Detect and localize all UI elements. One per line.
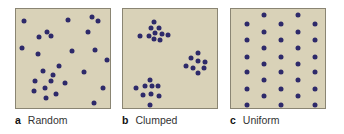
individual-dot bbox=[262, 46, 267, 51]
panel-label: Random bbox=[28, 114, 68, 126]
individual-dot bbox=[279, 70, 284, 75]
individual-dot bbox=[63, 81, 68, 86]
individual-dot bbox=[148, 78, 153, 83]
individual-dot bbox=[279, 22, 284, 27]
individual-dot bbox=[96, 19, 101, 24]
individual-dot bbox=[262, 30, 267, 35]
individual-dot bbox=[105, 58, 110, 63]
panel-label: Clumped bbox=[135, 114, 177, 126]
individual-dot bbox=[245, 103, 250, 108]
individual-dot bbox=[158, 38, 163, 43]
individual-dot bbox=[262, 78, 267, 83]
individual-dot bbox=[157, 26, 162, 31]
panel-caption-a: aRandom bbox=[15, 114, 68, 126]
panel-clumped bbox=[122, 8, 218, 109]
individual-dot bbox=[20, 46, 25, 51]
individual-dot bbox=[134, 86, 139, 91]
panel-random bbox=[15, 8, 111, 109]
individual-dot bbox=[156, 84, 161, 89]
individual-dot bbox=[57, 64, 62, 69]
individual-dot bbox=[245, 70, 250, 75]
individual-dot bbox=[202, 66, 207, 71]
individual-dot bbox=[82, 70, 87, 75]
individual-dot bbox=[313, 103, 318, 108]
individual-dot bbox=[41, 69, 46, 74]
panel-letter: b bbox=[122, 114, 128, 126]
individual-dot bbox=[196, 71, 201, 76]
individual-dot bbox=[93, 48, 98, 53]
individual-dot bbox=[33, 79, 38, 84]
individual-dot bbox=[141, 93, 146, 98]
individual-dot bbox=[189, 56, 194, 61]
individual-dot bbox=[149, 26, 154, 31]
individual-dot bbox=[32, 89, 37, 94]
individual-dot bbox=[153, 31, 158, 36]
individual-dot bbox=[313, 38, 318, 43]
individual-dot bbox=[44, 96, 49, 101]
individual-dot bbox=[245, 55, 250, 60]
panel-caption-c: cUniform bbox=[230, 114, 280, 126]
individual-dot bbox=[279, 103, 284, 108]
individual-dot bbox=[90, 15, 95, 20]
individual-dot bbox=[245, 22, 250, 27]
individual-dot bbox=[70, 49, 75, 54]
individual-dot bbox=[196, 59, 201, 64]
individual-dot bbox=[262, 62, 267, 67]
individual-dot bbox=[49, 34, 54, 39]
individual-dot bbox=[148, 103, 153, 108]
individual-dot bbox=[296, 78, 301, 83]
individual-dot bbox=[92, 101, 97, 106]
individual-dot bbox=[22, 19, 27, 24]
individual-dot bbox=[191, 66, 196, 71]
panel-letter: c bbox=[230, 114, 236, 126]
individual-dot bbox=[51, 73, 56, 78]
panel-letter: a bbox=[15, 114, 21, 126]
individual-dot bbox=[184, 64, 189, 69]
individual-dot bbox=[196, 51, 201, 56]
individual-dot bbox=[313, 55, 318, 60]
individual-dot bbox=[245, 38, 250, 43]
individual-dot bbox=[296, 46, 301, 51]
individual-dot bbox=[279, 87, 284, 92]
panel-uniform bbox=[230, 8, 326, 109]
individual-dot bbox=[245, 87, 250, 92]
individual-dot bbox=[313, 87, 318, 92]
individual-dot bbox=[66, 18, 71, 23]
individual-dot bbox=[43, 86, 48, 91]
individual-dot bbox=[143, 84, 148, 89]
panel-caption-b: bClumped bbox=[122, 114, 177, 126]
individual-dot bbox=[296, 62, 301, 67]
individual-dot bbox=[296, 30, 301, 35]
individual-dot bbox=[166, 33, 171, 38]
individual-dot bbox=[313, 70, 318, 75]
individual-dot bbox=[138, 34, 143, 39]
individual-dot bbox=[36, 52, 41, 57]
individual-dot bbox=[37, 35, 42, 40]
individual-dot bbox=[152, 37, 157, 42]
individual-dot bbox=[150, 84, 155, 89]
individual-dot bbox=[313, 22, 318, 27]
individual-dot bbox=[86, 30, 91, 35]
individual-dot bbox=[49, 79, 54, 84]
individual-dot bbox=[203, 60, 208, 65]
individual-dot bbox=[101, 86, 106, 91]
individual-dot bbox=[262, 94, 267, 99]
individual-dot bbox=[54, 92, 59, 97]
individual-dot bbox=[152, 20, 157, 25]
individual-dot bbox=[279, 38, 284, 43]
individual-dot bbox=[296, 94, 301, 99]
individual-dot bbox=[149, 92, 154, 97]
panel-label: Uniform bbox=[243, 114, 280, 126]
individual-dot bbox=[262, 13, 267, 18]
individual-dot bbox=[160, 32, 165, 37]
individual-dot bbox=[279, 55, 284, 60]
individual-dot bbox=[157, 94, 162, 99]
individual-dot bbox=[296, 13, 301, 18]
